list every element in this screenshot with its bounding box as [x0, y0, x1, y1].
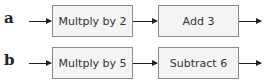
connector-arrow-a: [133, 21, 157, 22]
output-arrow-a: [239, 21, 261, 22]
output-arrow-b: [239, 63, 261, 64]
step-box-b1: Multply by 5: [52, 47, 133, 79]
step-box-b2: Subtract 6: [158, 47, 239, 79]
input-arrow-a: [29, 21, 51, 22]
step-box-a1: Multply by 2: [52, 5, 133, 37]
input-arrow-b: [29, 63, 51, 64]
row-label-a: a: [4, 9, 14, 27]
connector-arrow-b: [133, 63, 157, 64]
step-box-a2: Add 3: [158, 5, 239, 37]
row-label-b: b: [4, 51, 15, 69]
